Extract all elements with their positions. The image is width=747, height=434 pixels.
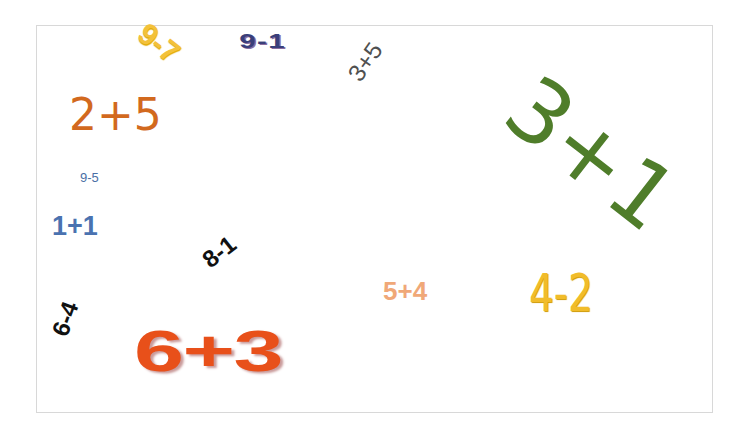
expression-2-plus-5: 2+5 bbox=[69, 93, 162, 137]
expression-1-plus-1: 1+1 bbox=[52, 213, 98, 240]
expression-9-minus-1: 9-1 bbox=[239, 30, 286, 51]
expression-4-minus-2: 4-2 bbox=[529, 267, 593, 319]
expression-6-plus-3: 6+3 bbox=[134, 322, 282, 380]
expression-5-plus-4: 5+4 bbox=[383, 278, 427, 304]
expression-9-minus-5: 9-5 bbox=[80, 171, 99, 184]
